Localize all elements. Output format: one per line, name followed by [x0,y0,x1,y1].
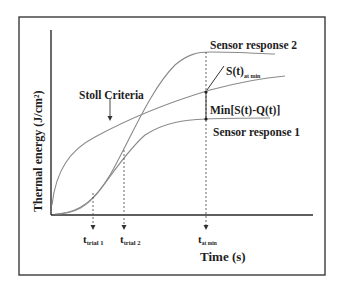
arrow-down-icon [122,225,127,230]
s-at-min-label: S(t)at min [226,65,261,79]
thermal-energy-diagram: Stoll Criteria Sensor response 2 Sensor … [0,0,337,292]
y-axis-label: Thermal energy (J/cm²) [31,90,45,212]
s-at-min-leader [207,66,224,90]
t-at-min-label: tat min [198,233,217,246]
sensor-response-2-label: Sensor response 2 [210,39,297,52]
t-trial-2-label: ttrial 2 [120,233,140,246]
s-at-min-point [204,90,207,93]
arrow-down-icon [108,116,113,121]
arrow-down-icon [204,225,209,230]
arrow-down-icon [91,225,96,230]
min-difference-label: Min[S(t)-Q(t)] [210,104,280,117]
stoll-criteria-label: Stoll Criteria [79,89,144,101]
sensor-response-1-label: Sensor response 1 [213,126,300,139]
sensor1-at-min-point [204,117,207,120]
x-axis-label: Time (s) [200,249,246,264]
figure-frame [19,17,325,275]
t-trial-1-label: ttrial 1 [83,233,103,246]
